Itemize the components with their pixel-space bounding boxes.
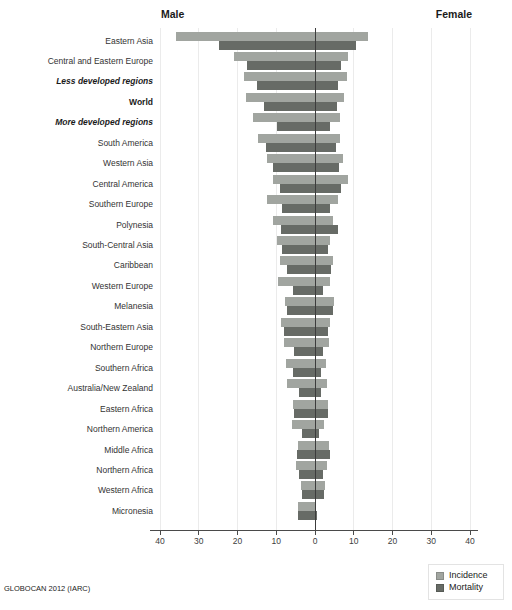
bar-incidence-male (293, 400, 315, 409)
bar-incidence-male (287, 379, 315, 388)
axis-tick (160, 531, 161, 535)
bar-incidence-female (315, 154, 343, 163)
bar-incidence-female (315, 297, 334, 306)
legend-incidence-label: Incidence (449, 570, 488, 581)
axis-tick (198, 531, 199, 535)
bar-mortality-female (315, 245, 328, 254)
bar-mortality-female (315, 409, 328, 418)
bar-mortality-female (315, 286, 323, 295)
bar-mortality-male (264, 102, 315, 111)
region-label: South-Central Asia (0, 240, 153, 250)
region-label: Micronesia (0, 506, 153, 516)
bar-mortality-male (293, 286, 315, 295)
axis-tick (470, 531, 471, 535)
bar-mortality-male (294, 409, 315, 418)
bar-incidence-female (315, 441, 329, 450)
legend-item-incidence: Incidence (436, 570, 497, 581)
region-label: World (0, 97, 153, 107)
source-text: GLOBOCAN 2012 (IARC) (4, 584, 90, 593)
region-label: South America (0, 138, 153, 148)
bar-incidence-female (315, 72, 347, 81)
bar-incidence-male (244, 72, 315, 81)
axis-tick (276, 531, 277, 535)
bar-mortality-male (257, 81, 315, 90)
region-label: South-Eastern Asia (0, 322, 153, 332)
incidence-swatch-icon (436, 572, 444, 580)
region-label: Australia/New Zealand (0, 383, 153, 393)
region-label: Central and Eastern Europe (0, 56, 153, 66)
bar-mortality-male (282, 204, 315, 213)
bar-incidence-female (315, 236, 330, 245)
bar-incidence-male (284, 338, 315, 347)
bar-incidence-male (292, 420, 315, 429)
bar-mortality-female (315, 347, 323, 356)
gridline (237, 28, 238, 530)
legend-mortality-label: Mortality (449, 582, 483, 593)
region-label: Western Asia (0, 158, 153, 168)
bar-incidence-male (246, 93, 315, 102)
bar-incidence-female (315, 32, 368, 41)
axis-tick-label: 30 (416, 536, 446, 546)
bar-mortality-male (299, 470, 315, 479)
zero-gridline (315, 28, 316, 530)
bar-incidence-male (301, 481, 315, 490)
gridline (431, 28, 432, 530)
bar-incidence-male (267, 195, 315, 204)
region-label: Polynesia (0, 220, 153, 230)
bar-mortality-female (315, 225, 338, 234)
axis-tick (392, 531, 393, 535)
axis-tick-label: 20 (223, 536, 253, 546)
region-label: Northern Africa (0, 465, 153, 475)
bar-mortality-female (315, 470, 323, 479)
bar-incidence-male (277, 236, 315, 245)
axis-tick-label: 20 (378, 536, 408, 546)
axis-tick-label: 40 (455, 536, 485, 546)
bar-incidence-male (267, 154, 315, 163)
bar-mortality-male (298, 511, 315, 520)
region-label: Northern Europe (0, 342, 153, 352)
bar-incidence-male (234, 52, 315, 61)
axis-tick-label: 40 (145, 536, 175, 546)
bar-incidence-male (296, 461, 315, 470)
gridline (470, 28, 471, 530)
bar-incidence-male (281, 318, 315, 327)
bar-mortality-male (247, 61, 315, 70)
bar-incidence-male (298, 441, 315, 450)
bar-mortality-male (293, 368, 315, 377)
bar-incidence-male (285, 297, 315, 306)
x-axis (150, 530, 478, 531)
bar-mortality-male (287, 306, 315, 315)
bar-mortality-male (302, 429, 315, 438)
bar-mortality-male (294, 347, 315, 356)
axis-tick (315, 531, 316, 535)
axis-tick-label: 10 (261, 536, 291, 546)
bar-incidence-female (315, 113, 340, 122)
bar-mortality-female (315, 327, 328, 336)
region-label: Less developed regions (0, 76, 153, 86)
region-label: Western Europe (0, 281, 153, 291)
axis-tick-label: 10 (339, 536, 369, 546)
bar-mortality-male (284, 327, 315, 336)
region-label: Western Africa (0, 485, 153, 495)
bar-incidence-male (258, 134, 315, 143)
bar-incidence-male (280, 256, 315, 265)
bar-incidence-female (315, 461, 327, 470)
bar-mortality-male (299, 388, 315, 397)
axis-tick (353, 531, 354, 535)
bar-mortality-female (315, 204, 330, 213)
bar-incidence-male (176, 32, 315, 41)
bar-mortality-female (315, 490, 324, 499)
bar-incidence-female (315, 379, 327, 388)
bar-mortality-male (302, 490, 315, 499)
bar-incidence-male (253, 113, 315, 122)
bar-incidence-male (286, 359, 315, 368)
region-label: Caribbean (0, 260, 153, 270)
bar-mortality-female (315, 184, 341, 193)
mortality-swatch-icon (436, 584, 444, 592)
region-label: Northern America (0, 424, 153, 434)
bar-mortality-male (281, 225, 315, 234)
bar-mortality-female (315, 450, 330, 459)
region-label: Central America (0, 179, 153, 189)
bar-incidence-female (315, 175, 348, 184)
region-label: Melanesia (0, 301, 153, 311)
